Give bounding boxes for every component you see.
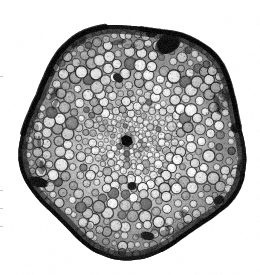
edge-tick-mark-3 [0,208,3,209]
micrograph-viewport: Transverse section of a stem showing par… [0,0,260,275]
edge-tick-mark-4 [0,226,3,227]
edge-tick-mark-1 [0,76,3,77]
specimen-micrograph-image [0,0,260,275]
edge-tick-mark-2 [0,190,3,191]
